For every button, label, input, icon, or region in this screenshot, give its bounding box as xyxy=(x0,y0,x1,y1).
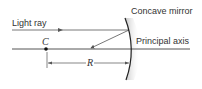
light-ray-label: Light ray xyxy=(12,19,47,28)
center-label: C xyxy=(42,37,49,47)
r-arrow-left-icon xyxy=(48,62,52,65)
center-point xyxy=(44,47,48,51)
radius-label: R xyxy=(86,58,94,68)
r-arrow-right-icon xyxy=(125,62,129,65)
mirror-label: Concave mirror xyxy=(131,7,193,16)
ray-arrow-icon xyxy=(58,28,63,32)
reflected-ray xyxy=(91,30,129,48)
principal-axis-label: Principal axis xyxy=(136,37,189,46)
